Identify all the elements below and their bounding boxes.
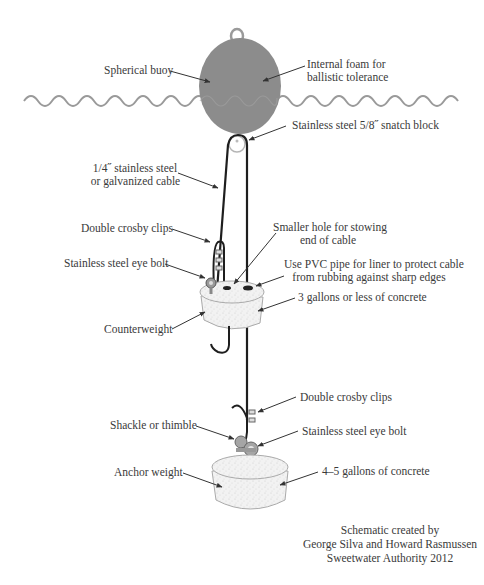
credit-line-1: Schematic created by	[300, 523, 480, 537]
label-crosby-clips-upper: Double crosby clips	[81, 221, 173, 235]
credit-block: Schematic created by George Silva and Ho…	[300, 523, 480, 565]
label-cable-1: 1/4˝ stainless steel	[90, 161, 180, 175]
credit-line-2: George Silva and Howard Rasmussen	[300, 537, 480, 551]
label-cable-2: or galvanized cable	[88, 174, 183, 188]
label-eye-bolt-upper: Stainless steel eye bolt	[64, 256, 168, 270]
spherical-buoy	[199, 29, 281, 134]
label-internal-foam-2: ballistic tolerance	[307, 70, 388, 84]
label-counterweight: Counterweight	[104, 322, 172, 336]
label-concrete-3gal: 3 gallons or less of concrete	[298, 290, 427, 304]
label-crosby-clips-lower: Double crosby clips	[300, 390, 392, 404]
label-smaller-hole-1: Smaller hole for stowing	[273, 220, 383, 234]
credit-line-3: Sweetwater Authority 2012	[300, 551, 480, 565]
upper-crosby-clips	[216, 250, 222, 270]
anchor-weight	[212, 455, 288, 509]
label-shackle: Shackle or thimble	[110, 418, 197, 432]
label-anchor-weight: Anchor weight	[114, 465, 183, 479]
counterweight	[200, 278, 264, 329]
label-spherical-buoy: Spherical buoy	[104, 63, 173, 77]
mooring-diagram: Spherical buoy Internal foam for ballist…	[0, 0, 484, 585]
label-concrete-45gal: 4–5 gallons of concrete	[322, 464, 430, 478]
counterweight-hook	[211, 326, 229, 353]
label-internal-foam-1: Internal foam for	[307, 57, 386, 71]
label-eye-bolt-lower: Stainless steel eye bolt	[302, 424, 406, 438]
label-snatch-block: Stainless steel 5/8˝ snatch block	[292, 118, 439, 132]
label-smaller-hole-2: end of cable	[273, 233, 383, 247]
cable	[217, 135, 247, 420]
lower-crosby-clips	[249, 410, 255, 422]
label-pvc-1: Use PVC pipe for liner to protect cable	[284, 257, 454, 271]
label-pvc-2: from rubbing against sharp edges	[284, 270, 454, 284]
